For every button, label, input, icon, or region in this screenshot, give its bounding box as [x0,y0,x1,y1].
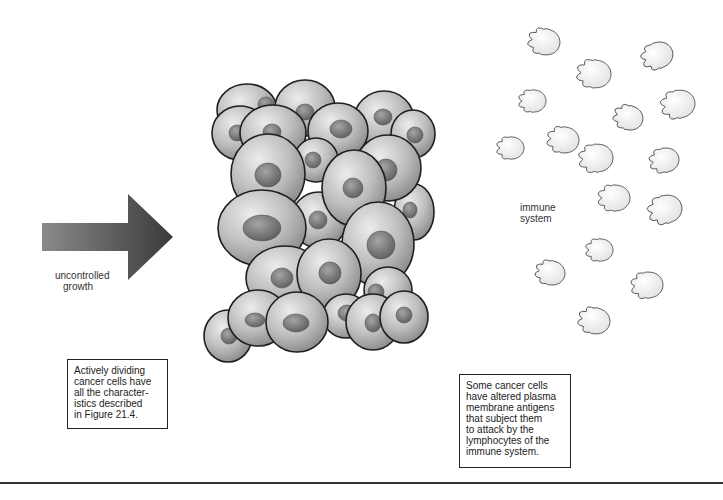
lymphocyte [645,191,685,227]
nucleus [374,109,392,125]
arrow-label-line-1: uncontrolled [55,270,109,281]
lymphocyte [576,58,612,89]
lymphocyte [611,102,646,133]
nucleus [319,262,341,284]
cancer-cell-cluster [204,80,435,362]
lymphocyte [534,258,567,287]
lymphocyte [598,185,630,211]
nucleus [407,127,423,143]
caption-line: all the character- [74,387,161,398]
lymphocyte [578,143,614,174]
immune-lymphocytes [497,26,697,337]
caption-line: istics described [74,398,161,409]
immune-label-line-2: system [520,213,556,224]
caption-line: membrane antigens [466,402,564,413]
nucleus [245,313,265,327]
lymphocyte [576,305,612,337]
caption-line: that subject them [466,413,564,424]
lymphocyte [659,87,697,121]
caption-line: lymphocytes of the [466,435,564,446]
nucleus [330,120,352,138]
page-divider [0,482,723,484]
arrow-label: uncontrolled growth [55,270,109,292]
nucleus [343,178,363,198]
lymphocyte [526,26,562,58]
lymphocyte [519,90,546,113]
nucleus [243,215,281,241]
nucleus [367,231,395,259]
nucleus [283,314,309,332]
cancer-cell [380,291,428,343]
caption-line: in Figure 21.4. [74,409,161,420]
arrow-label-line-2: growth [55,281,109,292]
caption-line: Actively dividing [74,365,161,376]
cancer-cells-caption: Actively dividing cancer cells have all … [67,359,168,429]
caption-line: Some cancer cells [466,380,564,391]
caption-line: have altered plasma [466,391,564,402]
lymphocyte [497,137,524,160]
nucleus [255,163,281,187]
nucleus [396,307,412,323]
lymphocyte [546,125,580,154]
cancer-cell [266,292,328,352]
caption-line: immune system. [466,446,564,457]
lymphocyte [586,239,613,262]
lymphocyte [648,146,681,175]
nucleus [365,314,381,332]
nucleus [305,152,321,168]
nucleus [309,211,327,229]
lymphocyte [638,38,677,74]
nucleus [271,268,293,288]
caption-line: cancer cells have [74,376,161,387]
growth-arrow-icon [42,194,173,280]
immune-label-line-1: immune [520,202,556,213]
lymphocyte [630,271,664,300]
immune-attack-caption: Some cancer cells have altered plasma me… [459,374,571,468]
caption-line: to attack by the [466,424,564,435]
immune-system-label: immune system [520,202,556,224]
